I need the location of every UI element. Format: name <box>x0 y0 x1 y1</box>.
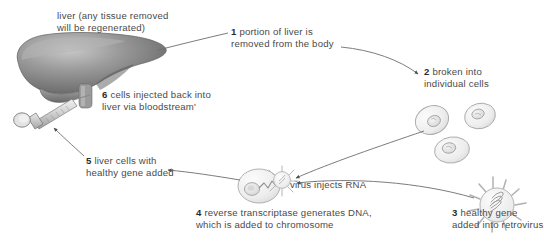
label-step-3: 3 healthy gene added into retrovirus <box>452 207 544 232</box>
arrow-liver-to-step1 <box>158 33 228 50</box>
label-step-5: 5 liver cells with healthy gene added <box>86 155 174 180</box>
label-step-3-line2: added into retrovirus <box>452 219 544 230</box>
label-step-5-line1: liver cells with <box>92 155 157 166</box>
liver-cell-3 <box>433 135 471 166</box>
label-step-1-line1: portion of liver is <box>237 26 313 37</box>
label-step-4: 4 reverse transcriptase generates DNA, w… <box>196 207 372 232</box>
liver-cell-2 <box>462 100 498 132</box>
label-step-3-line1: healthy gene <box>458 207 518 218</box>
label-step-2-line1: broken into <box>430 66 482 77</box>
arrow-target-cell-to-step5 <box>168 170 240 180</box>
liver-cell-with-virus <box>238 166 298 203</box>
label-step-2-line2: individual cells <box>424 78 489 89</box>
label-step-1: 1 portion of liver is removed from the b… <box>231 26 334 51</box>
label-liver-note-line2: will be regenerated) <box>57 22 145 33</box>
label-liver-note: liver (any tissue removed will be regene… <box>57 10 168 35</box>
label-liver-note-line1: liver (any tissue removed <box>57 10 168 21</box>
label-step-4-line1: reverse transcriptase generates DNA, <box>202 207 372 218</box>
label-step-6-line1: cells injected back into <box>108 89 211 100</box>
label-step-1-line2: removed from the body <box>231 38 334 49</box>
label-step-6: 6 cells injected back into liver via blo… <box>102 89 211 114</box>
gene-therapy-diagram: liver (any tissue removed will be regene… <box>0 0 544 247</box>
arrow-cells-to-target-cell <box>296 131 424 178</box>
label-step-5-line2: healthy gene added <box>86 167 174 178</box>
arrow-step5-to-syringe <box>54 128 84 156</box>
label-virus-injects-rna: virus injects RNA <box>290 179 366 191</box>
label-step-6-line2: liver via bloodstream' <box>102 101 196 112</box>
arrow-step1-to-cells <box>341 47 418 74</box>
label-step-4-line2: which is added to chromosome <box>196 219 334 230</box>
label-step-2: 2 broken into individual cells <box>424 66 489 91</box>
